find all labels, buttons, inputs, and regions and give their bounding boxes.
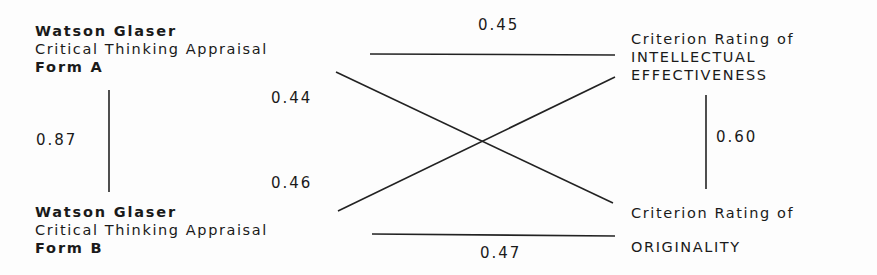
node-originality: Criterion Rating of ORIGINALITY [631,204,794,256]
node-form-b-form: Form B [35,239,268,257]
node-form-b: Watson Glaser Critical Thinking Appraisa… [35,203,268,257]
edge-formB-originality [372,234,615,236]
node-form-b-title: Watson Glaser [35,203,268,221]
node-form-a-form: Form A [35,58,268,76]
node-intellectual-line3: EFFECTIVENESS [631,66,794,84]
node-intellectual-effectiveness: Criterion Rating of INTELLECTUAL EFFECTI… [631,30,794,84]
node-originality-line2: ORIGINALITY [631,238,794,256]
coef-formA-originality: 0.44 [271,89,312,107]
coef-formA-formB: 0.87 [36,131,77,149]
node-form-a-subtitle: Critical Thinking Appraisal [35,40,268,58]
node-intellectual-line2: INTELLECTUAL [631,48,794,66]
edge-formA-intellectual [370,54,615,55]
coef-intellectual-originality: 0.60 [716,128,757,146]
node-intellectual-line1: Criterion Rating of [631,30,794,48]
edge-formA-originality [336,72,613,203]
node-originality-line1: Criterion Rating of [631,204,794,222]
coef-formB-originality: 0.47 [480,244,521,262]
coef-formA-intellectual: 0.45 [478,16,519,34]
node-form-b-subtitle: Critical Thinking Appraisal [35,221,268,239]
correlation-diagram: Watson Glaser Critical Thinking Appraisa… [0,0,877,275]
node-form-a: Watson Glaser Critical Thinking Appraisa… [35,22,268,76]
node-form-a-title: Watson Glaser [35,22,268,40]
edge-formB-intellectual [338,77,615,211]
coef-formB-intellectual: 0.46 [271,174,312,192]
